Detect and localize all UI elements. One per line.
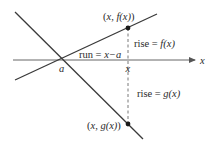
x-axis-label: x bbox=[199, 55, 205, 66]
f-point-close: ) bbox=[131, 11, 135, 23]
f-point-label: (x, f(x)) bbox=[103, 11, 135, 23]
run-prefix: run = bbox=[79, 49, 104, 60]
f-point-coords: x, f(x) bbox=[106, 11, 132, 23]
g-point-coords: x, g(x) bbox=[90, 120, 118, 132]
rise-f-label: rise = f(x) bbox=[134, 38, 175, 50]
g-point-label: (x, g(x)) bbox=[87, 120, 121, 132]
rise-f-prefix: rise = bbox=[134, 38, 160, 49]
g-line bbox=[15, 12, 143, 139]
rise-g-expression: g(x) bbox=[163, 88, 180, 100]
g-point-marker bbox=[126, 122, 131, 127]
f-point-marker bbox=[126, 26, 131, 31]
run-expression: x−a bbox=[103, 49, 121, 60]
run-label: run = x−a bbox=[79, 49, 121, 60]
rise-g-prefix: rise = bbox=[137, 88, 163, 99]
slope-diagram: x a x run = x−a rise = f(x) rise = g(x) … bbox=[0, 0, 210, 149]
a-label: a bbox=[59, 63, 64, 74]
rise-f-expression: f(x) bbox=[160, 38, 175, 50]
g-point-close: ) bbox=[117, 120, 121, 132]
x-tick-label: x bbox=[125, 63, 131, 74]
rise-g-label: rise = g(x) bbox=[137, 88, 181, 100]
